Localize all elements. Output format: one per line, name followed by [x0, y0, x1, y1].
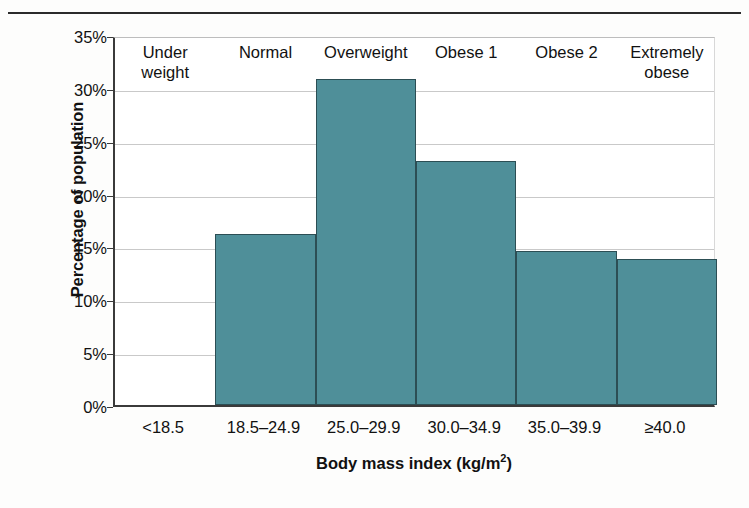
y-axis-tick-label: 5% [49, 345, 107, 364]
y-axis-tick-label: 30% [49, 80, 107, 99]
y-axis-tick-labels: 0%5%10%15%20%25%30%35% [45, 37, 107, 407]
y-axis-tick-mark [107, 143, 113, 144]
figure-canvas: Percentage of population 0%5%10%15%20%25… [0, 0, 749, 508]
y-axis-tick-label: 15% [49, 239, 107, 258]
bar-35.0–39.9[interactable] [516, 251, 616, 405]
bar-series [115, 38, 714, 405]
y-axis-tick-mark [107, 354, 113, 355]
y-axis-tick-label: 20% [49, 186, 107, 205]
y-axis-tick-mark [107, 196, 113, 197]
bar-≥40.0[interactable] [617, 259, 717, 405]
x-axis-tick-label-5: ≥40.0 [615, 418, 715, 437]
page-top-rule [8, 12, 741, 14]
bar-25.0–29.9[interactable] [316, 79, 416, 405]
x-axis-tick-label-3: 30.0–34.9 [414, 418, 514, 437]
x-axis-tick-label-2: 25.0–29.9 [314, 418, 414, 437]
y-axis-tick-label: 35% [49, 28, 107, 47]
x-axis-tick-label-1: 18.5–24.9 [213, 418, 313, 437]
x-axis-title-base: Body mass index (kg/m [316, 454, 500, 472]
category-label-5: Extremely obese [617, 42, 717, 82]
category-label-3: Obese 1 [416, 42, 516, 62]
y-axis-tick-label: 10% [49, 292, 107, 311]
x-axis-title: Body mass index (kg/m2) [113, 452, 715, 473]
x-axis-tick-label-0: <18.5 [113, 418, 213, 437]
category-label-2: Overweight [316, 42, 416, 62]
category-label-4: Obese 2 [516, 42, 616, 62]
x-axis-tick-label-4: 35.0–39.9 [514, 418, 614, 437]
y-axis-tick-mark [107, 37, 113, 38]
y-axis-tick-mark [107, 90, 113, 91]
y-axis-tick-mark [107, 301, 113, 302]
x-axis-title-tail: ) [506, 454, 512, 472]
y-axis-tick-label: 25% [49, 133, 107, 152]
y-axis-tick-label: 0% [49, 398, 107, 417]
category-label-0: Under weight [115, 42, 215, 82]
bar-30.0–34.9[interactable] [416, 161, 516, 405]
category-label-1: Normal [215, 42, 315, 62]
bar-18.5–24.9[interactable] [215, 234, 315, 405]
y-axis-tick-mark [107, 248, 113, 249]
y-axis-tick-mark [107, 407, 113, 408]
plot-area: Under weightNormalOverweightObese 1Obese… [113, 37, 715, 407]
